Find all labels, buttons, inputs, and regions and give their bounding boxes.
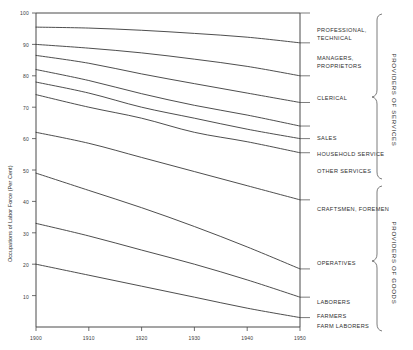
y-tick-label-90: 90 [23, 42, 29, 48]
series-line-household-service [36, 70, 300, 127]
category-label-laborers: LABORERS [317, 299, 350, 305]
x-tick-label-1950: 1950 [294, 335, 306, 341]
y-tick-label-40: 40 [23, 199, 29, 205]
category-label-clerical: CLERICAL [317, 95, 347, 101]
x-tick-label-1910: 1910 [83, 335, 95, 341]
series-line-sales [36, 55, 300, 102]
category-label-managers-proprietors-line1: MANAGERS, [317, 55, 354, 61]
y-tick-label-30: 30 [23, 231, 29, 237]
y-tick-label-80: 80 [23, 73, 29, 79]
series-line-farm-laborers [36, 264, 300, 317]
series-line-clerical [36, 44, 300, 75]
series-line-farmers [36, 223, 300, 297]
x-tick-label-1930: 1930 [188, 335, 200, 341]
x-axis-ticks [36, 327, 300, 331]
group-label-providers-of-goods: PROVIDERS OF GOODS [391, 222, 397, 305]
category-label-craftsmen-foremen: CRAFTSMEN, FOREMEN [317, 206, 389, 212]
category-label-professional-technical-line1: PROFESSIONAL, [317, 27, 367, 33]
y-tick-label-70: 70 [23, 105, 29, 111]
series-lines-group [36, 27, 300, 317]
y-tick-label-50: 50 [23, 168, 29, 174]
category-label-farmers: FARMERS [317, 313, 347, 319]
category-label-managers-proprietors-line2: PROPRIETORS [317, 63, 361, 69]
y-tick-label-10: 10 [23, 294, 29, 300]
category-label-farm-laborers: FARM LABORERS [317, 323, 369, 329]
series-line-other-services [36, 82, 300, 139]
series-line-operatives [36, 132, 300, 200]
category-label-professional-technical-line2: TECHNICAL [317, 35, 352, 41]
y-tick-label-60: 60 [23, 136, 29, 142]
category-label-household-service: HOUSEHOLD SERVICE [317, 151, 384, 157]
y-axis-ticks [32, 13, 36, 296]
x-tick-label-1900: 1900 [30, 335, 42, 341]
x-tick-label-1940: 1940 [241, 335, 253, 341]
category-label-other-services: OTHER SERVICES [317, 168, 371, 174]
category-label-operatives: OPERATIVES [317, 260, 356, 266]
y-tick-label-20: 20 [23, 262, 29, 268]
series-line-laborers [36, 173, 300, 269]
occupation-distribution-chart: Occupations of Labor Force (Per Cent) 10… [0, 0, 413, 350]
y-tick-label-100: 100 [20, 10, 29, 16]
y-axis-title: Occupations of Labor Force (Per Cent) [7, 165, 13, 262]
series-line-managers-proprietors [36, 27, 300, 43]
leader-lines-group [300, 13, 310, 327]
category-label-sales: SALES [317, 135, 337, 141]
series-line-craftsmen-foremen [36, 95, 300, 153]
x-tick-label-1920: 1920 [136, 335, 148, 341]
group-label-providers-of-services: PROVIDERS OF SERVICES [391, 54, 397, 147]
